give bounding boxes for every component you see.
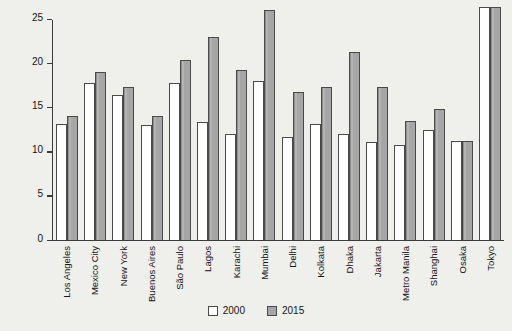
bar bbox=[293, 92, 304, 241]
bar bbox=[236, 70, 247, 240]
x-tick-label: Tokyo bbox=[477, 243, 505, 305]
bar bbox=[152, 116, 163, 240]
bar bbox=[56, 124, 67, 240]
bar bbox=[479, 7, 490, 240]
y-tick-label: 10 bbox=[32, 144, 43, 155]
bar bbox=[462, 141, 473, 240]
y-tick-label: 0 bbox=[37, 233, 43, 244]
x-tick-label-text: Buenos Aires bbox=[147, 246, 157, 302]
y-tick-label: 25 bbox=[32, 12, 43, 23]
x-tick-label-text: Delhi bbox=[288, 246, 298, 268]
x-tick-label-text: Karachi bbox=[232, 246, 242, 278]
legend-swatch bbox=[208, 306, 218, 316]
bar bbox=[349, 52, 360, 240]
bar-group bbox=[53, 20, 81, 240]
x-tick-label-text: Los Angeles bbox=[62, 246, 72, 298]
x-tick-label-text: Tokyo bbox=[486, 246, 496, 271]
y-tick-label: 15 bbox=[32, 100, 43, 111]
x-tick-label-text: Osaka bbox=[458, 246, 468, 273]
chart-legend: 20002015 bbox=[0, 305, 512, 316]
x-tick-label-text: Mexico City bbox=[91, 246, 101, 295]
bar bbox=[405, 121, 416, 240]
bar bbox=[123, 87, 134, 240]
x-tick-label: São Paulo bbox=[166, 243, 194, 305]
x-tick-label-text: Dhaka bbox=[345, 246, 355, 273]
bar bbox=[451, 141, 462, 240]
x-tick-label: Mumbai bbox=[251, 243, 279, 305]
x-tick-label: Los Angeles bbox=[53, 243, 81, 305]
bar bbox=[253, 81, 264, 240]
x-tick-label-text: Mumbai bbox=[260, 246, 270, 280]
legend-item-2000[interactable]: 2000 bbox=[208, 305, 245, 316]
bar-group bbox=[194, 20, 222, 240]
y-tick-label: 5 bbox=[37, 188, 43, 199]
x-tick-label-text: Shanghai bbox=[430, 246, 440, 286]
bar-groups bbox=[53, 20, 504, 240]
legend-label: 2000 bbox=[223, 305, 245, 316]
x-tick-label-text: Kolkata bbox=[317, 246, 327, 278]
bar bbox=[394, 145, 405, 240]
x-tick-label: Delhi bbox=[279, 243, 307, 305]
x-tick-label: Buenos Aires bbox=[138, 243, 166, 305]
bar-group bbox=[250, 20, 278, 240]
bar-group bbox=[476, 20, 504, 240]
bar-group bbox=[448, 20, 476, 240]
x-tick-label: Metro Manila bbox=[392, 243, 420, 305]
bar bbox=[169, 83, 180, 240]
x-tick-label-text: São Paulo bbox=[175, 246, 185, 290]
x-tick-label: Karachi bbox=[223, 243, 251, 305]
bar bbox=[180, 60, 191, 240]
bar-group bbox=[363, 20, 391, 240]
y-tick: 25 bbox=[47, 19, 52, 20]
legend-item-2015[interactable]: 2015 bbox=[267, 305, 304, 316]
bar-group bbox=[335, 20, 363, 240]
x-tick-label: Dhaka bbox=[336, 243, 364, 305]
bar bbox=[282, 137, 293, 240]
bar-group bbox=[279, 20, 307, 240]
bar bbox=[310, 124, 321, 240]
x-tick-label: Mexico City bbox=[81, 243, 109, 305]
bar-group bbox=[138, 20, 166, 240]
bar bbox=[95, 72, 106, 240]
bar-group bbox=[109, 20, 137, 240]
x-tick-label-text: Jakarta bbox=[373, 246, 383, 277]
y-tick-label: 20 bbox=[32, 56, 43, 67]
plot-area: 0510152025 bbox=[52, 20, 504, 241]
bar bbox=[84, 83, 95, 240]
x-axis-category-labels: Los AngelesMexico CityNew YorkBuenos Air… bbox=[53, 243, 505, 305]
y-tick: 15 bbox=[47, 107, 52, 108]
bar bbox=[112, 95, 123, 240]
bar-group bbox=[222, 20, 250, 240]
y-tick: 5 bbox=[47, 195, 52, 196]
bar bbox=[264, 10, 275, 240]
x-tick-label-text: New York bbox=[119, 246, 129, 286]
x-tick-label: Lagos bbox=[194, 243, 222, 305]
bar bbox=[366, 142, 377, 240]
y-tick: 20 bbox=[47, 63, 52, 64]
bar bbox=[338, 134, 349, 240]
bar bbox=[423, 130, 434, 240]
y-tick: 10 bbox=[47, 151, 52, 152]
legend-label: 2015 bbox=[282, 305, 304, 316]
bar-chart: Population in millions 0510152025 Los An… bbox=[0, 0, 512, 331]
bar bbox=[208, 37, 219, 240]
x-tick-label: Shanghai bbox=[420, 243, 448, 305]
bar-group bbox=[419, 20, 447, 240]
x-tick-label: Kolkata bbox=[307, 243, 335, 305]
bar bbox=[67, 116, 78, 240]
bar bbox=[225, 134, 236, 240]
x-tick-label: New York bbox=[110, 243, 138, 305]
bar bbox=[197, 122, 208, 240]
y-tick: 0 bbox=[47, 240, 52, 241]
legend-swatch bbox=[267, 306, 277, 316]
bar-group bbox=[391, 20, 419, 240]
bar bbox=[377, 87, 388, 240]
bar bbox=[141, 125, 152, 240]
bar-group bbox=[307, 20, 335, 240]
x-tick-label: Osaka bbox=[449, 243, 477, 305]
x-tick-label-text: Lagos bbox=[204, 246, 214, 272]
bar bbox=[434, 109, 445, 240]
x-tick-label-text: Metro Manila bbox=[401, 246, 411, 301]
x-tick-label: Jakarta bbox=[364, 243, 392, 305]
bar-group bbox=[166, 20, 194, 240]
